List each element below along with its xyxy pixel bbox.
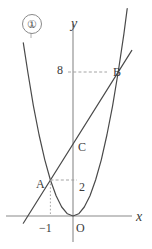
y-axis-label: y [71, 17, 77, 31]
y-tick-label-2: 2 [79, 181, 85, 193]
x-tick-label-neg1: −1 [39, 222, 52, 234]
origin-label: O [76, 222, 85, 234]
point-label-a: A [36, 178, 45, 190]
point-label-b: B [113, 66, 121, 78]
figure-number-badge: ① [22, 14, 42, 34]
x-axis-label: x [136, 210, 142, 224]
y-tick-label-8: 8 [57, 64, 63, 76]
point-label-c: C [78, 141, 86, 153]
math-figure: ① y x 8 B C A 2 −1 O [0, 0, 152, 249]
coordinate-plot-svg [0, 0, 152, 249]
